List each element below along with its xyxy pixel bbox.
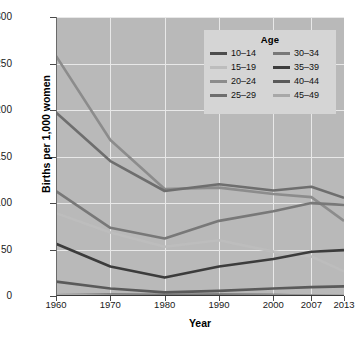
x-axis-tick-label: 2000 [253, 300, 293, 310]
series-line-40-44 [56, 282, 344, 293]
y-axis-title: Births per 1,000 women [40, 44, 52, 224]
legend-swatch-icon [273, 52, 290, 55]
legend-item[interactable]: 35–39 [273, 62, 330, 73]
legend: Age 10–1415–1920–2425–29 30–3435–3940–44… [204, 30, 336, 114]
y-axis-tick-label: 150 [0, 152, 12, 162]
legend-column-right: 30–3435–3940–4445–49 [273, 48, 330, 101]
legend-item-label: 25–29 [231, 90, 256, 101]
y-axis-tick-mark [50, 17, 56, 18]
y-axis-tick-label: 50 [0, 245, 12, 255]
x-axis-tick-mark [110, 296, 111, 301]
legend-swatch-icon [210, 66, 227, 69]
legend-item-label: 30–34 [294, 48, 319, 59]
x-axis-tick-label: 1980 [145, 300, 185, 310]
x-axis-title: Year [56, 317, 344, 329]
legend-item-label: 45–49 [294, 90, 319, 101]
legend-swatch-icon [210, 94, 227, 97]
series-line-25-29 [56, 112, 344, 197]
series-line-35-39 [56, 244, 344, 278]
series-line-30-34 [56, 191, 344, 238]
y-axis-tick-mark [50, 250, 56, 251]
legend-item[interactable]: 15–19 [210, 62, 267, 73]
y-axis-tick-label: 0 [0, 291, 12, 301]
legend-item[interactable]: 20–24 [210, 76, 267, 87]
x-axis-tick-label: 2013 [324, 300, 361, 310]
legend-item[interactable]: 40–44 [273, 76, 330, 87]
x-axis-tick-label: 1960 [36, 300, 76, 310]
legend-item-label: 35–39 [294, 62, 319, 73]
legend-item-label: 20–24 [231, 76, 256, 87]
y-axis-tick-label: 300 [0, 12, 12, 22]
legend-item[interactable]: 10–14 [210, 48, 267, 59]
x-axis-tick-mark [344, 296, 345, 301]
legend-item[interactable]: 25–29 [210, 90, 267, 101]
legend-swatch-icon [273, 94, 290, 97]
y-axis-tick-label: 250 [0, 59, 12, 69]
legend-item-label: 40–44 [294, 76, 319, 87]
legend-item[interactable]: 30–34 [273, 48, 330, 59]
y-axis-tick-label: 100 [0, 198, 12, 208]
y-axis-tick-label: 200 [0, 105, 12, 115]
legend-swatch-icon [273, 80, 290, 83]
x-axis-tick-mark [311, 296, 312, 301]
legend-swatch-icon [273, 66, 290, 69]
legend-swatch-icon [210, 52, 227, 55]
x-axis-tick-mark [56, 296, 57, 301]
x-axis-tick-label: 1970 [90, 300, 130, 310]
x-axis-tick-mark [165, 296, 166, 301]
x-axis-tick-mark [273, 296, 274, 301]
legend-column-left: 10–1415–1920–2425–29 [210, 48, 267, 101]
legend-item[interactable]: 45–49 [273, 90, 330, 101]
series-line-45-49 [56, 295, 344, 296]
legend-item-label: 10–14 [231, 48, 256, 59]
legend-swatch-icon [210, 80, 227, 83]
x-axis-tick-mark [219, 296, 220, 301]
legend-columns: 10–1415–1920–2425–29 30–3435–3940–4445–4… [210, 48, 330, 101]
legend-title: Age [210, 34, 330, 45]
chart-figure: 050100150200250300 196019701980199020002… [0, 0, 361, 338]
legend-item-label: 15–19 [231, 62, 256, 73]
x-axis-tick-label: 1990 [199, 300, 239, 310]
